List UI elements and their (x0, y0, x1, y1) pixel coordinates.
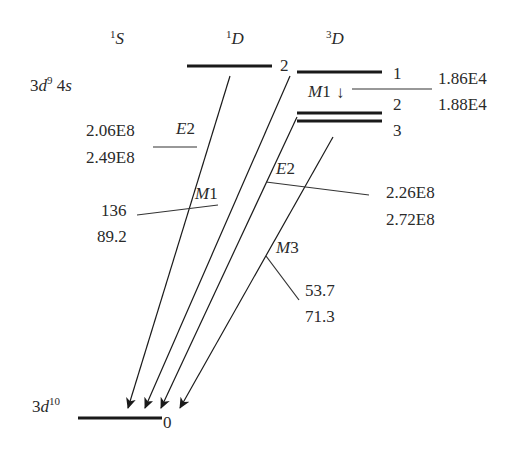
rate-value: 2.06E8 (86, 121, 135, 140)
rate-value: 53.7 (305, 281, 335, 300)
transition-type-label: M1 (307, 82, 331, 101)
level-j-label: 2 (280, 56, 289, 75)
rate-value: 2.26E8 (386, 183, 435, 202)
lower-configuration-label: 3d10 (32, 395, 61, 416)
rate-value: 136 (101, 201, 127, 220)
transition-3D3-to-ground (180, 137, 333, 408)
energy-level-diagram: 1S 1D 3D 3d9 4s 2 1 2 3 0 3d10 M1 ↓ 1.86… (0, 0, 523, 454)
term-label-3D: 3D (326, 28, 345, 48)
level-j-label: 3 (393, 121, 402, 140)
rate-value: 1.86E4 (438, 69, 487, 88)
level-j-label: 0 (163, 413, 172, 432)
level-j-label: 2 (393, 95, 402, 114)
leader-line (137, 205, 218, 215)
rate-value: 2.49E8 (86, 148, 135, 167)
rate-value: 2.72E8 (386, 210, 435, 229)
rate-value: 89.2 (97, 227, 127, 246)
term-label-1D: 1D (226, 28, 245, 48)
level-j-label: 1 (393, 64, 402, 83)
rate-value: 71.3 (305, 307, 335, 326)
transition-type-label: M1 (194, 184, 218, 203)
transition-type-label: M3 (275, 238, 299, 257)
leader-line (266, 256, 299, 300)
down-arrow-icon: ↓ (336, 83, 345, 102)
transition-3D1-to-ground (145, 76, 290, 408)
upper-configuration-label: 3d9 4s (30, 74, 72, 95)
transition-type-label: E2 (275, 159, 295, 178)
transition-type-label: E2 (175, 119, 195, 138)
rate-value: 1.88E4 (438, 95, 487, 114)
term-label-1S: 1S (110, 28, 125, 48)
leader-line (266, 182, 369, 195)
